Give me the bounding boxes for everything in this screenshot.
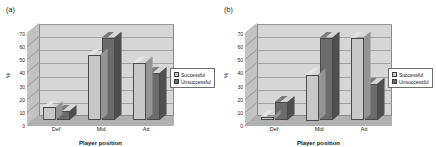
y-axis-tick: 70 (10, 32, 25, 37)
bar (306, 75, 319, 121)
x-axis-title: Player position (245, 140, 392, 146)
chart-panel-b: (b) 010203040506070%DefMidAttPlayer posi… (218, 0, 436, 147)
y-axis-tick: 70 (228, 32, 243, 37)
y-axis-tick: 0 (228, 124, 243, 129)
bar (88, 55, 101, 121)
bar-side-face (332, 32, 339, 121)
legend-swatch-icon (174, 72, 179, 77)
bar-front-face (351, 38, 364, 121)
bar (351, 38, 364, 121)
legend-item[interactable]: Unsuccessful (392, 78, 429, 85)
bar-front-face (133, 63, 146, 121)
bar-front-face (43, 107, 56, 120)
bar (133, 63, 146, 121)
y-axis-tick: 10 (228, 111, 243, 116)
bar (261, 117, 274, 121)
y-axis-title: % (5, 73, 11, 78)
y-axis-tick: 20 (228, 98, 243, 103)
plot-area: 010203040506070%DefMidAttPlayer position… (218, 0, 436, 147)
bar-side-face (363, 32, 370, 121)
x-axis-tick: Att (348, 126, 380, 132)
legend-label: Unsuccessful (399, 79, 429, 85)
x-axis-tick: Def (258, 126, 290, 132)
figure: (a) 010203040506070%DefMidAttPlayer posi… (0, 0, 436, 147)
y-axis-tick: 50 (228, 58, 243, 63)
legend-label: Successful (399, 72, 423, 78)
x-axis-tick: Mid (303, 126, 335, 132)
bar-side-face (318, 68, 325, 120)
bar (43, 107, 56, 120)
legend-swatch-icon (392, 79, 397, 84)
gridline (257, 24, 392, 25)
bar-front-face (88, 55, 101, 121)
legend: SuccessfulUnsuccessful (388, 68, 433, 88)
y-axis-tick: 30 (228, 85, 243, 90)
bar-side-face (100, 49, 107, 121)
x-axis-title: Player position (27, 140, 174, 146)
bar-front-face (261, 117, 274, 121)
x-axis-tick: Def (40, 126, 72, 132)
y-axis-tick: 50 (10, 58, 25, 63)
legend-label: Successful (181, 72, 205, 78)
legend-swatch-icon (392, 72, 397, 77)
y-axis-tick: 10 (10, 111, 25, 116)
y-axis-tick: 60 (228, 45, 243, 50)
x-axis-tick: Att (130, 126, 162, 132)
bar-front-face (306, 75, 319, 121)
y-axis-tick: 30 (10, 85, 25, 90)
y-axis-tick: 20 (10, 98, 25, 103)
legend-swatch-icon (174, 79, 179, 84)
bar-side-face (159, 67, 166, 121)
bar-front-face (275, 102, 288, 120)
legend-label: Unsuccessful (181, 79, 211, 85)
legend-item[interactable]: Unsuccessful (174, 78, 211, 85)
legend-item[interactable]: Successful (392, 71, 429, 78)
legend-item[interactable]: Successful (174, 71, 211, 78)
y-axis-tick: 0 (10, 124, 25, 129)
bar-side-face (114, 32, 121, 121)
bar-side-face (145, 56, 152, 120)
y-axis-tick: 60 (10, 45, 25, 50)
y-axis-tick: 40 (228, 71, 243, 76)
chart-panel-a: (a) 010203040506070%DefMidAttPlayer posi… (0, 0, 218, 147)
x-axis-tick: Mid (85, 126, 117, 132)
legend: SuccessfulUnsuccessful (170, 68, 215, 88)
bar (275, 102, 288, 120)
y-axis-title: % (223, 73, 229, 78)
gridline (39, 24, 174, 25)
bar-side-face (377, 78, 384, 121)
plot-area: 010203040506070%DefMidAttPlayer position… (0, 0, 218, 147)
y-axis-tick: 40 (10, 71, 25, 76)
